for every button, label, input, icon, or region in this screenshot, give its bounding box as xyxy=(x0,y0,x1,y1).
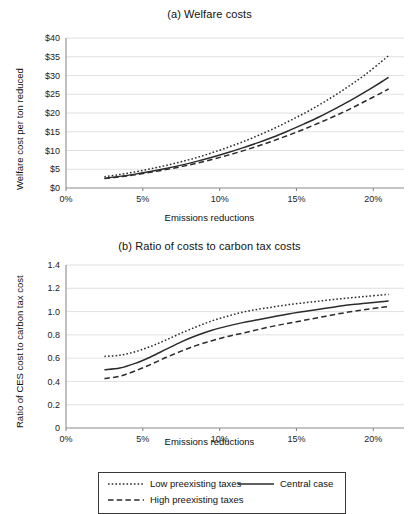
y-axis-tick-label: $40 xyxy=(45,33,60,43)
y-axis-tick-label: 0.4 xyxy=(47,377,60,387)
dashed-line-swatch-icon xyxy=(108,496,144,504)
chart-legend: Low preexisting taxes High preexisting t… xyxy=(98,472,346,514)
y-axis-tick-label: 1.0 xyxy=(47,307,60,317)
chart-panel-cost-ratio: (b) Ratio of costs to carbon tax costs R… xyxy=(0,232,419,464)
y-axis-tick-label: 1.4 xyxy=(47,260,60,270)
panel-b-x-axis-label: Emissions reductions xyxy=(0,436,419,447)
legend-label-low: Low preexisting taxes xyxy=(150,478,241,489)
x-axis-tick-label: 0% xyxy=(59,194,72,204)
y-axis-tick-label: 0 xyxy=(55,423,60,433)
y-axis-tick-label: $25 xyxy=(45,89,60,99)
x-axis-tick-label: 10% xyxy=(211,194,229,204)
legend-label-high: High preexisting taxes xyxy=(150,494,243,505)
y-axis-tick-label: $35 xyxy=(45,52,60,62)
legend-label-central: Central case xyxy=(280,478,333,489)
panel-a-x-axis-label: Emissions reductions xyxy=(0,212,419,223)
y-axis-tick-label: $30 xyxy=(45,71,60,81)
y-axis-tick-label: $15 xyxy=(45,127,60,137)
x-axis-tick-label: 20% xyxy=(364,194,382,204)
dotted-line-swatch-icon xyxy=(108,480,144,488)
legend-item-low-preexisting-taxes: Low preexisting taxes xyxy=(108,478,241,489)
chart-panel-welfare-costs: (a) Welfare costs Welfare cost per ton r… xyxy=(0,0,419,228)
x-axis-tick-label: 15% xyxy=(287,194,305,204)
series-line-central-case xyxy=(104,77,388,178)
y-axis-tick-label: $10 xyxy=(45,146,60,156)
panel-a-plot: $0$5$10$15$20$25$30$35$400%5%10%15%20% xyxy=(0,0,419,228)
panel-b-plot: 00.20.40.60.81.01.21.40%5%10%15%20% xyxy=(0,232,419,464)
y-axis-tick-label: 0.8 xyxy=(47,330,60,340)
y-axis-tick-label: 0.6 xyxy=(47,353,60,363)
x-axis-tick-label: 5% xyxy=(136,194,149,204)
legend-item-high-preexisting-taxes: High preexisting taxes xyxy=(108,494,243,505)
y-axis-tick-label: 1.2 xyxy=(47,283,60,293)
y-axis-tick-label: $5 xyxy=(50,164,60,174)
series-line-low-preexisting-taxes xyxy=(104,56,388,177)
solid-line-swatch-icon xyxy=(238,480,274,488)
y-axis-tick-label: $0 xyxy=(50,183,60,193)
y-axis-tick-label: $20 xyxy=(45,108,60,118)
series-line-low-preexisting-taxes xyxy=(104,294,388,356)
y-axis-tick-label: 0.2 xyxy=(47,400,60,410)
legend-item-central-case: Central case xyxy=(238,478,333,489)
series-line-high-preexisting-taxes xyxy=(104,307,388,379)
